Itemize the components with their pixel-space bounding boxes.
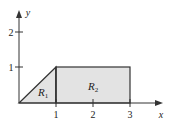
x-tick-1: 1 (54, 109, 59, 120)
y-axis-arrow-icon (16, 10, 22, 18)
x-tick-3: 3 (128, 109, 133, 120)
y-tick-1: 1 (9, 62, 14, 73)
x-axis-arrow-icon (155, 100, 163, 106)
x-axis-label: x (158, 109, 164, 120)
y-axis-label: y (25, 7, 31, 18)
y-tick-2: 2 (9, 27, 14, 38)
region-diagram: 1 2 3 1 2 x y R1 R2 (0, 0, 171, 126)
x-tick-2: 2 (91, 109, 96, 120)
